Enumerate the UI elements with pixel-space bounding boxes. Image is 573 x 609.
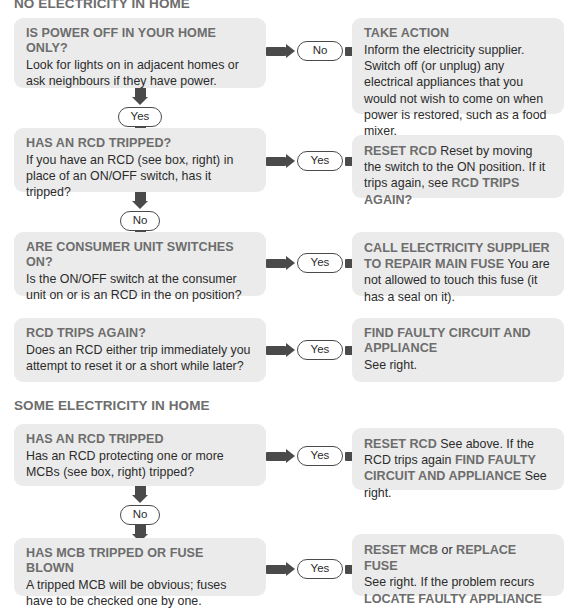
arrow-right-icon	[286, 44, 295, 58]
connector-bar-icon	[266, 259, 286, 268]
flow-label-no[interactable]: No	[120, 211, 161, 231]
answer-lead: RESET RCD	[364, 437, 437, 451]
arrow-down-icon	[132, 495, 148, 503]
arrow-right-icon	[286, 256, 295, 270]
answer-box-reset-rcd[interactable]: RESET RCD Reset by moving the switch to …	[352, 135, 564, 198]
arrow-right-icon	[286, 449, 295, 463]
question-title: HAS MCB TRIPPED OR FUSE BLOWN	[26, 546, 254, 576]
section-heading-no-electricity: NO ELECTRICITY IN HOME	[14, 0, 190, 11]
question-body: Look for lights on in adjacent homes or …	[26, 57, 254, 89]
arrow-right-icon	[286, 154, 295, 168]
answer-box-find-faulty-circuit[interactable]: FIND FAULTY CIRCUIT AND APPLIANCE See ri…	[352, 318, 564, 382]
arrow-down-icon	[132, 201, 148, 209]
answer-box-reset-mcb[interactable]: RESET MCB or REPLACE FUSESee right. If t…	[352, 534, 564, 596]
answer-lead: RESET RCD	[364, 144, 437, 158]
answer-title: TAKE ACTION	[364, 26, 552, 41]
connector-bar-icon	[135, 486, 146, 495]
answer-body: See right.	[364, 357, 552, 373]
flow-label-no[interactable]: No	[120, 505, 161, 525]
connector-bar-icon	[135, 192, 146, 201]
connector-bar-icon	[266, 346, 286, 355]
answer-box-reset-rcd-see-above[interactable]: RESET RCD See above. If the RCD trips ag…	[352, 428, 564, 490]
branch-label-yes[interactable]: Yes	[297, 253, 343, 273]
arrow-down-icon	[132, 97, 148, 105]
question-title: HAS AN RCD TRIPPED	[26, 432, 254, 447]
section-heading-some-electricity: SOME ELECTRICITY IN HOME	[14, 398, 210, 413]
question-body: Does an RCD either trip immediately you …	[26, 342, 254, 374]
question-box-rcd-tripped-some[interactable]: HAS AN RCD TRIPPED Has an RCD protecting…	[14, 424, 266, 486]
branch-label-yes[interactable]: Yes	[297, 446, 343, 466]
connector-bar-icon	[266, 157, 286, 166]
question-body: Has an RCD protecting one or more MCBs (…	[26, 448, 254, 480]
question-box-rcd-trips-again[interactable]: RCD TRIPS AGAIN? Does an RCD either trip…	[14, 318, 266, 382]
branch-label-yes[interactable]: Yes	[297, 559, 343, 579]
answer-body: RESET MCB or REPLACE FUSESee right. If t…	[364, 542, 552, 607]
connector-bar-icon	[266, 452, 286, 461]
answer-tail2: LOCATE FAULTY APPLIANCE	[364, 592, 542, 606]
flow-label-yes[interactable]: Yes	[118, 107, 163, 127]
answer-title: FIND FAULTY CIRCUIT AND APPLIANCE	[364, 326, 552, 356]
answer-mid: or	[438, 543, 456, 557]
question-title: RCD TRIPS AGAIN?	[26, 326, 254, 341]
answer-body: RESET RCD See above. If the RCD trips ag…	[364, 436, 552, 501]
branch-label-no[interactable]: No	[297, 41, 343, 61]
answer-body: RESET RCD Reset by moving the switch to …	[364, 143, 552, 208]
answer-body: Inform the electricity supplier. Switch …	[364, 42, 552, 139]
connector-bar-icon	[135, 88, 146, 97]
answer-body: CALL ELECTRICITY SUPPLIER TO REPAIR MAIN…	[364, 240, 552, 305]
question-body: Is the ON/OFF switch at the consumer uni…	[26, 271, 254, 303]
question-title: IS POWER OFF IN YOUR HOME ONLY?	[26, 26, 254, 56]
answer-lead: RESET MCB	[364, 543, 438, 557]
branch-label-yes[interactable]: Yes	[297, 340, 343, 360]
connector-bar-icon	[135, 525, 146, 534]
connector-bar-icon	[266, 565, 286, 574]
question-title: HAS AN RCD TRIPPED?	[26, 136, 254, 151]
question-box-power-off-home-only[interactable]: IS POWER OFF IN YOUR HOME ONLY? Look for…	[14, 18, 266, 88]
arrow-right-icon	[286, 562, 295, 576]
branch-label-yes[interactable]: Yes	[297, 151, 343, 171]
question-title: ARE CONSUMER UNIT SWITCHES ON?	[26, 240, 254, 270]
flow-connector-no-5: No	[105, 486, 175, 544]
question-box-mcb-tripped[interactable]: HAS MCB TRIPPED OR FUSE BLOWN A tripped …	[14, 538, 266, 596]
answer-box-call-supplier[interactable]: CALL ELECTRICITY SUPPLIER TO REPAIR MAIN…	[352, 232, 564, 296]
connector-bar-icon	[266, 47, 286, 56]
question-body: A tripped MCB will be obvious; fuses hav…	[26, 577, 254, 609]
answer-body-text: See right. If the problem recurs	[364, 575, 534, 589]
answer-box-take-action[interactable]: TAKE ACTION Inform the electricity suppl…	[352, 18, 564, 114]
arrow-right-icon	[286, 343, 295, 357]
question-box-rcd-tripped[interactable]: HAS AN RCD TRIPPED? If you have an RCD (…	[14, 128, 266, 192]
question-box-consumer-unit-switches[interactable]: ARE CONSUMER UNIT SWITCHES ON? Is the ON…	[14, 232, 266, 296]
